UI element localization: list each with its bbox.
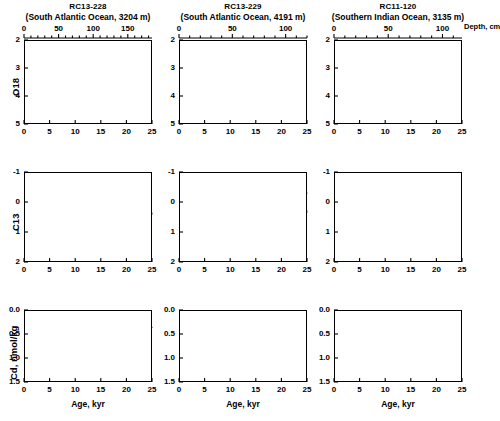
xlabel-col-1: Age, kyr [213,399,273,409]
xtick-0-0-15: 15 [92,127,110,136]
xtick-0-0-0: 0 [15,127,33,136]
ylabel-row-0: O18 [10,78,21,96]
core-subtitle-2: (South Atlantic Ocean, 4191 m) [165,12,321,22]
ytick-1-c1-0: 0 [157,197,175,206]
xtick-1-1-10: 10 [221,265,239,274]
plot-frame-0-0 [24,40,152,124]
xtick-2-2-0: 0 [325,385,343,394]
plot-frame-2-1 [179,310,307,382]
ytick-0-2: 2 [0,35,20,44]
core-title-3: RC11-120 [338,2,458,11]
xtick-0-2-10: 10 [376,127,394,136]
plot-frame-0-1 [179,40,307,124]
xtick-2-0-15: 15 [92,385,110,394]
ytick-2-c2-1.5: 1.5 [312,377,330,386]
ytick-1-c2--1: -1 [312,167,330,176]
xtick-0-1-20: 20 [272,127,290,136]
xtick-2-1-25: 25 [298,385,316,394]
xtick-2-1-10: 10 [221,385,239,394]
ytick-0-c2-5: 5 [312,119,330,128]
xtick-2-2-20: 20 [427,385,445,394]
ytick-0-c1-2: 2 [157,35,175,44]
xtick-0-1-25: 25 [298,127,316,136]
plot-frame-2-2 [334,310,462,382]
xtick-2-0-20: 20 [117,385,135,394]
ytick-0-c1-3: 3 [157,63,175,72]
ytick-1-0: 0 [0,197,20,206]
xtick-0-0-10: 10 [66,127,84,136]
depth-tick-3-50: 50 [378,24,398,33]
ytick-1-c1-1: 1 [157,227,175,236]
depth-tick-1-50: 50 [49,24,69,33]
xlabel-col-2: Age, kyr [368,399,428,409]
ytick-1-c2-0: 0 [312,197,330,206]
xtick-1-2-10: 10 [376,265,394,274]
xtick-0-1-5: 5 [196,127,214,136]
ytick-2-c2-0.0: 0.0 [312,305,330,314]
plot-frame-2-0 [24,310,152,382]
xtick-0-2-20: 20 [427,127,445,136]
depth-tick-2-0: 0 [169,24,189,33]
ylabel-row-1: C13 [10,214,21,231]
xtick-0-2-5: 5 [351,127,369,136]
plot-frame-1-2 [334,172,462,262]
ytick-1-2: 2 [0,257,20,266]
depth-tick-2-100: 100 [276,24,296,33]
ytick-0-c1-5: 5 [157,119,175,128]
ytick-0-c1-4: 4 [157,91,175,100]
plot-frame-1-0 [24,172,152,262]
xtick-1-1-0: 0 [170,265,188,274]
xtick-0-0-25: 25 [143,127,161,136]
ytick-1--1: -1 [0,167,20,176]
ytick-2-c2-0.5: 0.5 [312,329,330,338]
xtick-2-1-15: 15 [247,385,265,394]
xtick-0-2-0: 0 [325,127,343,136]
xtick-1-1-5: 5 [196,265,214,274]
depth-tick-3-0: 0 [324,24,344,33]
xtick-1-1-25: 25 [298,265,316,274]
plot-frame-1-1 [179,172,307,262]
xtick-1-2-20: 20 [427,265,445,274]
xtick-1-2-5: 5 [351,265,369,274]
xtick-0-2-15: 15 [402,127,420,136]
ytick-0-c2-3: 3 [312,63,330,72]
core-subtitle-1: (South Atlantic Ocean, 3204 m) [10,12,166,22]
depth-axis-caption: Depth, cm [464,22,500,31]
xtick-1-0-5: 5 [41,265,59,274]
xtick-2-2-15: 15 [402,385,420,394]
ytick-0-c2-2: 2 [312,35,330,44]
core-title-2: RC13-229 [183,2,303,11]
xtick-2-0-5: 5 [41,385,59,394]
ytick-1-c1-2: 2 [157,257,175,266]
core-title-1: RC13-228 [28,2,148,11]
xtick-1-0-0: 0 [15,265,33,274]
xtick-1-1-15: 15 [247,265,265,274]
ytick-0-5: 5 [0,119,20,128]
xtick-0-1-10: 10 [221,127,239,136]
ytick-2-c1-1.0: 1.0 [157,353,175,362]
xtick-1-0-25: 25 [143,265,161,274]
ytick-2-0.0: 0.0 [0,305,20,314]
xtick-2-1-5: 5 [196,385,214,394]
ytick-2-c1-0.0: 0.0 [157,305,175,314]
xtick-0-2-25: 25 [453,127,471,136]
core-subtitle-3: (Southern Indian Ocean, 3135 m) [320,12,476,22]
depth-tick-3-100: 100 [432,24,452,33]
depth-tick-2-50: 50 [222,24,242,33]
depth-tick-1-100: 100 [83,24,103,33]
xtick-1-1-20: 20 [272,265,290,274]
ytick-1-c2-1: 1 [312,227,330,236]
xtick-2-2-10: 10 [376,385,394,394]
ytick-2-c1-1.5: 1.5 [157,377,175,386]
xtick-0-1-15: 15 [247,127,265,136]
ytick-2-c2-1.0: 1.0 [312,353,330,362]
xtick-1-2-15: 15 [402,265,420,274]
xtick-0-0-5: 5 [41,127,59,136]
xtick-2-1-20: 20 [272,385,290,394]
xtick-1-0-20: 20 [117,265,135,274]
xtick-0-0-20: 20 [117,127,135,136]
ytick-1-c1--1: -1 [157,167,175,176]
ytick-0-3: 3 [0,63,20,72]
xtick-2-2-25: 25 [453,385,471,394]
